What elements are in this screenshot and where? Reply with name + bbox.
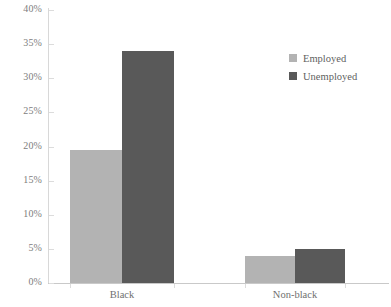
chart-legend: EmployedUnemployed: [289, 50, 357, 86]
bar-black-employed: [70, 150, 122, 283]
x-axis-tick-mark: [345, 284, 346, 288]
legend-swatch-icon: [289, 54, 297, 62]
y-axis-tick-mark: [49, 283, 54, 284]
legend-item-label: Unemployed: [303, 71, 357, 82]
bar-black-unemployed: [122, 51, 174, 283]
x-axis-tick-mark: [245, 284, 246, 288]
x-axis-tick-mark: [174, 284, 175, 288]
legend-item-label: Employed: [303, 53, 346, 64]
x-axis-tick-mark: [70, 284, 71, 288]
legend-item-employed[interactable]: Employed: [289, 50, 357, 66]
x-axis-tick-label: Black: [62, 289, 182, 305]
bar-chart: 40%35%30%25%20%15%10%5%0% BlackNon-black…: [0, 0, 391, 307]
x-axis-tick-label: Non-black: [235, 289, 355, 305]
bars-layer: [0, 0, 391, 283]
bar-non-black-unemployed: [295, 249, 345, 283]
x-axis-line: [48, 283, 389, 284]
legend-item-unemployed[interactable]: Unemployed: [289, 68, 357, 84]
bar-non-black-employed: [245, 256, 295, 283]
legend-swatch-icon: [289, 72, 297, 80]
